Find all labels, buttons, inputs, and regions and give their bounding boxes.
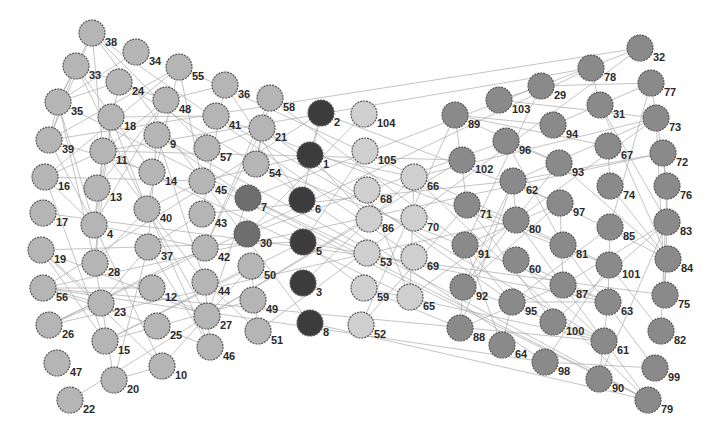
graph-node-48 <box>153 87 179 113</box>
edge <box>513 118 656 181</box>
node-label: 86 <box>382 222 394 234</box>
graph-node-75 <box>652 282 678 308</box>
node-label: 77 <box>664 86 676 98</box>
node-label: 42 <box>218 251 230 263</box>
node-label: 38 <box>105 36 117 48</box>
graph-node-26 <box>36 312 62 338</box>
node-label: 19 <box>54 253 66 265</box>
node-label: 51 <box>271 334 283 346</box>
node-label: 63 <box>621 305 633 317</box>
graph-node-57 <box>194 135 220 161</box>
graph-node-77 <box>638 70 664 96</box>
graph-node-45 <box>189 168 215 194</box>
node-label: 67 <box>621 149 633 161</box>
graph-node-56 <box>30 275 56 301</box>
graph-node-17 <box>30 200 56 226</box>
node-label: 27 <box>220 319 232 331</box>
graph-node-103 <box>486 87 512 113</box>
graph-node-70 <box>401 205 427 231</box>
node-label: 76 <box>680 189 692 201</box>
graph-node-21 <box>249 115 275 141</box>
node-label: 37 <box>161 250 173 262</box>
graph-node-30 <box>234 221 260 247</box>
node-label: 65 <box>423 300 435 312</box>
node-label: 61 <box>617 344 629 356</box>
graph-node-92 <box>450 274 476 300</box>
graph-node-64 <box>489 332 515 358</box>
graph-node-40 <box>134 196 160 222</box>
node-label: 89 <box>468 118 480 130</box>
graph-node-49 <box>240 287 266 313</box>
node-label: 5 <box>316 245 322 257</box>
graph-node-1 <box>297 142 323 168</box>
graph-node-37 <box>135 234 161 260</box>
graph-node-32 <box>627 35 653 61</box>
node-label: 98 <box>558 365 570 377</box>
graph-node-46 <box>197 334 223 360</box>
node-label: 68 <box>380 193 392 205</box>
node-label: 28 <box>108 266 120 278</box>
graph-node-20 <box>101 367 127 393</box>
node-label: 2 <box>334 116 340 128</box>
node-label: 73 <box>669 121 681 133</box>
graph-node-105 <box>352 138 378 164</box>
graph-node-95 <box>499 289 525 315</box>
graph-node-66 <box>401 164 427 190</box>
graph-node-5 <box>290 229 316 255</box>
node-label: 50 <box>264 269 276 281</box>
graph-node-12 <box>139 275 165 301</box>
node-label: 23 <box>114 306 126 318</box>
node-label: 82 <box>674 334 686 346</box>
node-label: 33 <box>89 69 101 81</box>
graph-node-52 <box>348 312 374 338</box>
node-label: 62 <box>526 184 538 196</box>
graph-node-23 <box>88 290 114 316</box>
graph-node-36 <box>212 72 238 98</box>
graph-node-31 <box>587 92 613 118</box>
node-label: 36 <box>238 88 250 100</box>
graph-node-55 <box>166 54 192 80</box>
node-label: 88 <box>473 331 485 343</box>
node-label: 45 <box>215 184 227 196</box>
node-label: 87 <box>576 288 588 300</box>
graph-node-51 <box>245 318 271 344</box>
graph-node-7 <box>235 185 261 211</box>
node-label: 10 <box>175 369 187 381</box>
graph-node-24 <box>106 69 132 95</box>
graph-node-15 <box>92 328 118 354</box>
graph-node-65 <box>397 284 423 310</box>
node-label: 16 <box>58 180 70 192</box>
graph-node-60 <box>503 247 529 273</box>
node-label: 96 <box>519 144 531 156</box>
node-label: 93 <box>572 166 584 178</box>
graph-node-84 <box>655 246 681 272</box>
graph-node-63 <box>595 289 621 315</box>
graph-node-34 <box>123 39 149 65</box>
node-label: 39 <box>62 143 74 155</box>
node-label: 99 <box>668 371 680 383</box>
graph-node-54 <box>243 151 269 177</box>
network-graph: 3834335524483658351841213991157541614451… <box>0 0 724 441</box>
graph-node-68 <box>354 177 380 203</box>
graph-node-11 <box>90 138 116 164</box>
graph-node-25 <box>144 313 170 339</box>
node-label: 75 <box>678 298 690 310</box>
graph-node-8 <box>297 310 323 336</box>
graph-node-81 <box>550 232 576 258</box>
node-label: 32 <box>653 51 665 63</box>
node-label: 34 <box>149 55 162 67</box>
node-label: 3 <box>316 286 322 298</box>
node-label: 1 <box>323 158 329 170</box>
graph-node-62 <box>500 168 526 194</box>
node-label: 70 <box>427 221 439 233</box>
node-label: 18 <box>124 120 136 132</box>
graph-node-33 <box>63 53 89 79</box>
node-label: 66 <box>427 180 439 192</box>
graph-node-87 <box>550 272 576 298</box>
graph-node-101 <box>596 252 622 278</box>
node-label: 92 <box>476 290 488 302</box>
graph-node-97 <box>547 190 573 216</box>
graph-node-6 <box>289 187 315 213</box>
node-label: 91 <box>478 248 490 260</box>
node-label: 101 <box>622 268 640 280</box>
